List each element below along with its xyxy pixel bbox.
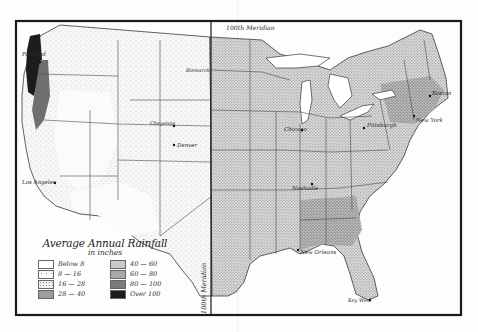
city-label-boston: Boston — [431, 90, 452, 96]
city-label-pittsburgh: Pittsburgh — [366, 122, 397, 129]
southeast-wet-band — [300, 196, 362, 250]
legend-swatch-60-80 — [110, 270, 126, 279]
legend-swatch-below-8 — [38, 260, 54, 269]
legend-subtitle: in inches — [30, 248, 180, 257]
legend-label: 16 — 28 — [58, 280, 106, 289]
city-label-los-angeles: Los Angeles — [21, 179, 56, 186]
legend-swatch-28-40 — [38, 290, 54, 299]
city-label-chicago: Chicago — [284, 126, 307, 133]
legend-label: Over 100 — [130, 290, 180, 299]
city-label-bismarck: Bismarck — [185, 67, 210, 73]
meridian-label-top: 100th Meridian — [226, 24, 275, 31]
legend-grid: Below 8 40 — 60 8 — 16 60 — 80 16 — 28 8… — [38, 260, 180, 299]
legend-label: 60 — 80 — [130, 270, 180, 279]
legend-label: 8 — 16 — [58, 270, 106, 279]
legend-label: 28 — 40 — [58, 290, 106, 299]
city-label-cheyenne: Cheyenne — [150, 120, 175, 127]
meridian-label-bottom: 100th Meridian — [200, 263, 208, 314]
legend-label: Below 8 — [58, 260, 106, 269]
city-label-portland: Portland — [21, 51, 46, 57]
legend-swatch-16-28 — [38, 280, 54, 289]
legend-swatch-over-100 — [110, 290, 126, 299]
legend-swatch-8-16 — [38, 270, 54, 279]
eastern-us-land — [210, 30, 448, 300]
city-label-nashville: Nashville — [291, 185, 319, 191]
city-label-new-york: New York — [415, 117, 444, 123]
city-label-key-west: Key West — [347, 297, 372, 304]
legend-swatch-40-60 — [110, 260, 126, 269]
legend-label: 40 — 60 — [130, 260, 180, 269]
legend-swatch-80-100 — [110, 280, 126, 289]
city-label-denver: Denver — [176, 142, 198, 148]
city-label-new-orleans: New Orleans — [299, 249, 336, 255]
map-legend: Average Annual Rainfall in inches Below … — [30, 237, 180, 299]
legend-label: 80 — 100 — [130, 280, 180, 289]
